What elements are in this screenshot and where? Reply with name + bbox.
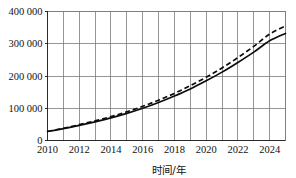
y-tick-label: 100 000 bbox=[8, 103, 42, 114]
y-axis-tick-labels: 0100 000200 000300 000400 000 bbox=[8, 6, 42, 146]
y-tick-label: 300 000 bbox=[8, 38, 42, 49]
chart-container: 0100 000200 000300 000400 000 2010201220… bbox=[0, 0, 296, 178]
x-tick-label: 2022 bbox=[227, 144, 248, 155]
x-tick-label: 2018 bbox=[164, 144, 185, 155]
x-axis-title: 时间/年 bbox=[152, 164, 186, 176]
x-tick-label: 2024 bbox=[259, 144, 281, 155]
series-layer bbox=[48, 26, 286, 131]
x-tick-label: 2012 bbox=[69, 144, 90, 155]
x-tick-label: 2014 bbox=[100, 144, 122, 155]
line-chart: 0100 000200 000300 000400 000 2010201220… bbox=[0, 0, 296, 178]
x-tick-label: 2020 bbox=[196, 144, 217, 155]
x-tick-label: 2016 bbox=[132, 144, 153, 155]
y-tick-label: 200 000 bbox=[8, 71, 42, 82]
x-tick-label: 2010 bbox=[37, 144, 58, 155]
grid-layer bbox=[48, 12, 286, 141]
y-tick-label: 400 000 bbox=[8, 6, 42, 17]
series-dashed-curve bbox=[48, 26, 286, 131]
series-solid-curve bbox=[48, 33, 286, 131]
x-axis-tick-labels: 20102012201420162018202020222024 bbox=[37, 144, 281, 155]
